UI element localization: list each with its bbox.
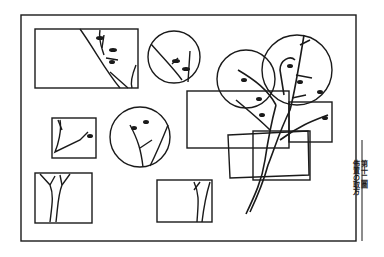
figure-label: 第十二圖 xyxy=(360,160,368,195)
main-branch xyxy=(236,35,328,214)
figure-title: 佈置の取方 xyxy=(352,160,360,195)
frame-circle-top-center xyxy=(148,31,200,83)
outer-frame xyxy=(21,15,356,241)
frame-bottom-middle-rect xyxy=(157,180,212,222)
frame-middle-rect xyxy=(187,91,289,148)
figure-caption: 第十二圖 佈置の取方 xyxy=(356,160,368,195)
frame-circle-right-b xyxy=(262,35,332,105)
leaves xyxy=(87,36,328,138)
frame-top-left-rect xyxy=(35,29,138,88)
illustration-plate xyxy=(0,0,384,257)
frame-bottom-left-rect xyxy=(35,173,92,223)
frame-circle-middle xyxy=(110,107,170,167)
frame-small-left-rect xyxy=(52,118,96,158)
